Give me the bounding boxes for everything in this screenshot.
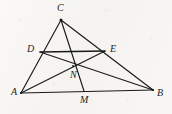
segment-cevian-cm <box>61 20 84 91</box>
vertex-label-e: E <box>110 44 116 54</box>
vertex-label-b: B <box>157 88 163 98</box>
segment-cevian-ae <box>21 51 105 93</box>
vertex-dot-a <box>20 92 22 94</box>
segment-cevian-db <box>40 52 153 90</box>
vertex-dot-b <box>152 89 154 91</box>
vertex-label-n: N <box>70 70 77 80</box>
vertex-label-d: D <box>27 44 34 54</box>
vertex-dot-c <box>60 19 63 22</box>
segment-midsegment-de <box>40 51 105 52</box>
vertex-label-a: A <box>11 87 17 97</box>
vertex-label-c: C <box>57 3 64 13</box>
segment-side-ab <box>21 90 153 93</box>
vertex-dot-group <box>20 19 154 95</box>
segment-group <box>21 20 153 93</box>
vertex-label-m: M <box>80 95 88 105</box>
vertex-dot-n <box>72 65 74 67</box>
geometry-figure: C D E N A M B <box>0 0 172 114</box>
